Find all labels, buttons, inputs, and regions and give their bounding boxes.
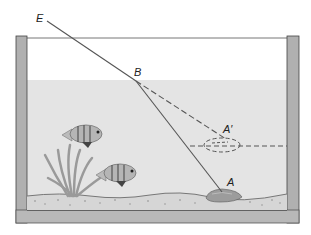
label-b: B <box>134 67 141 78</box>
tank-left-wall <box>16 36 27 223</box>
label-a-prime: A′ <box>223 124 232 135</box>
label-e: E <box>36 13 43 24</box>
label-a: A <box>227 177 234 188</box>
refraction-diagram <box>0 0 311 235</box>
tank-base <box>16 210 299 223</box>
incident-ray <box>47 21 136 81</box>
tank-right-wall <box>287 36 299 223</box>
